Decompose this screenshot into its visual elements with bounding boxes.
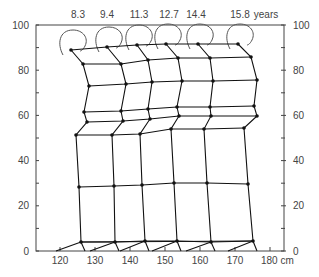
age-label: 12.7 [159,9,179,20]
head-outline [187,24,213,49]
x-tick-label: 140 [122,255,139,266]
x-axis: 120130140150160170180 cm [52,247,294,266]
y-axis-right: 020406080100 [281,20,310,257]
head-outline [96,27,122,52]
landmark-node [146,58,150,62]
y-axis-left: 020406080100 [12,20,39,257]
landmark-node [242,126,246,130]
figure-outline [166,44,182,241]
x-tick-label: 120 [52,255,69,266]
landmark-node [121,119,125,123]
landmark-node [140,183,144,187]
landmark-node [246,182,250,186]
landmark-node [177,114,181,118]
x-tick-label: 160 [192,255,209,266]
landmark-node [209,240,213,244]
landmark-node [138,132,142,136]
landmark-node [105,45,109,49]
landmark-node [69,48,73,52]
figure-outline [137,45,152,241]
landmark-node [249,55,253,59]
stick-figures [56,44,257,251]
landmark-node [202,127,206,131]
landmark-node [113,240,117,244]
y-tick-label: 60 [18,110,30,121]
landmark-node [112,184,116,188]
landmark-node [180,79,184,83]
landmark-node [119,109,123,113]
landmark-node [148,117,152,121]
head-outline [227,24,253,49]
landmark-node [74,133,78,137]
landmark-node [164,42,168,46]
age-label: 9.4 [100,9,114,20]
age-label: 15.8 [230,9,250,20]
landmark-node [209,114,213,118]
x-tick-label: 130 [87,255,104,266]
landmark-node [82,110,86,114]
head-outline [155,24,181,49]
figure-outline [107,47,126,242]
landmark-connector [83,57,251,64]
landmark-node [81,62,85,66]
landmark-connector [89,80,257,86]
foot [56,242,81,251]
landmark-node [77,185,81,189]
head-outline [126,25,152,50]
landmark-node [110,133,114,137]
landmark-node [205,181,209,185]
landmark-node [85,120,89,124]
landmark-node [255,114,259,118]
age-label: 11.3 [130,9,149,20]
y-tick-label-right: 20 [293,200,305,211]
landmark-node [251,239,255,243]
landmark-node [150,80,154,84]
head-outlines [60,24,253,55]
age-label: 14.4 [186,9,206,20]
landmark-node [252,104,256,108]
landmark-nodes [69,42,259,244]
figure-outline [238,44,257,241]
x-tick-label: 170 [227,255,244,266]
x-tick-label: 180 cm [261,255,294,266]
landmark-node [119,62,123,66]
age-unit-label: years [254,9,278,20]
landmark-connector [79,183,248,187]
landmark-node [211,79,215,83]
landmark-node [175,105,179,109]
foot [186,242,211,251]
y-tick-label-right: 0 [293,246,299,257]
figure-outline [198,44,213,242]
age-labels: 8.39.411.312.714.415.8years [71,9,278,20]
landmark-node [176,56,180,60]
landmark-connector [76,128,244,135]
age-label: 8.3 [71,9,85,20]
y-tick-label: 80 [18,65,30,76]
landmark-node [236,42,240,46]
y-tick-label-right: 100 [293,20,310,31]
landmark-node [208,105,212,109]
landmark-node [79,240,83,244]
landmark-node [124,82,128,86]
head-outline [60,30,86,55]
landmark-node [135,43,139,47]
landmark-node [146,107,150,111]
y-tick-label: 0 [23,246,29,257]
landmark-node [208,56,212,60]
figure-outline [71,50,89,242]
landmark-node [169,127,173,131]
y-tick-label-right: 80 [293,65,305,76]
landmark-connectors [71,44,257,242]
landmark-node [87,84,91,88]
foot [120,241,145,251]
y-tick-label-right: 40 [293,155,305,166]
body-proportion-diagram: 020406080100 020406080100 12013014015016… [0,0,319,277]
foot [90,242,115,251]
foot [228,241,253,251]
landmark-node [175,239,179,243]
landmark-connector [87,116,257,122]
y-tick-label: 20 [18,200,30,211]
y-tick-label-right: 60 [293,110,305,121]
y-tick-label: 100 [12,20,29,31]
y-tick-label: 40 [18,155,30,166]
